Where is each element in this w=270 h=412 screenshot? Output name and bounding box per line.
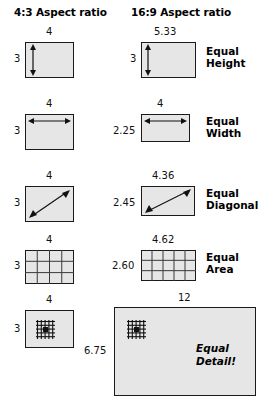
row5-right-side-dimension: 6.75 xyxy=(84,345,106,356)
row5-left-top-dimension: 4 xyxy=(46,294,52,305)
row3-left-diagonal-arrow-icon xyxy=(25,186,74,222)
row4-caption-line1: Equal xyxy=(206,252,239,264)
row2-right-side-dimension: 2.25 xyxy=(113,125,135,136)
row5-left-pixel-detail-icon xyxy=(36,320,55,339)
row5-left-side-dimension: 3 xyxy=(14,323,20,334)
row3-right-side-dimension: 2.45 xyxy=(113,197,135,208)
row5-right-pixel-detail-icon xyxy=(127,320,146,339)
row2-right-width-arrow-icon xyxy=(141,114,190,142)
row4-caption-line2: Area xyxy=(206,264,234,276)
row5-caption-line1: Equal xyxy=(196,343,229,355)
row-equal-detail: 4 3 12 6.75 xyxy=(0,0,270,112)
row5-right-top-dimension: 12 xyxy=(178,292,191,303)
row4-left-area-grid-icon xyxy=(25,250,74,284)
row3-caption-line1: Equal xyxy=(206,188,239,200)
row3-left-top-dimension: 4 xyxy=(46,170,52,181)
row2-left-width-arrow-icon xyxy=(25,114,74,150)
row2-caption-line1: Equal xyxy=(206,116,239,128)
row5-caption-line2: Detail! xyxy=(196,356,236,368)
row4-right-side-dimension: 2.60 xyxy=(112,260,134,271)
row4-left-top-dimension: 4 xyxy=(46,234,52,245)
row4-right-area-grid-icon xyxy=(141,250,196,281)
row2-caption-line2: Width xyxy=(206,128,241,140)
row2-left-side-dimension: 3 xyxy=(14,125,20,136)
row3-right-diagonal-arrow-icon xyxy=(141,186,195,216)
row4-right-top-dimension: 4.62 xyxy=(152,234,174,245)
row4-left-side-dimension: 3 xyxy=(14,260,20,271)
row3-right-top-dimension: 4.36 xyxy=(152,170,174,181)
row3-caption-line2: Diagonal xyxy=(206,200,258,212)
row3-left-side-dimension: 3 xyxy=(14,197,20,208)
